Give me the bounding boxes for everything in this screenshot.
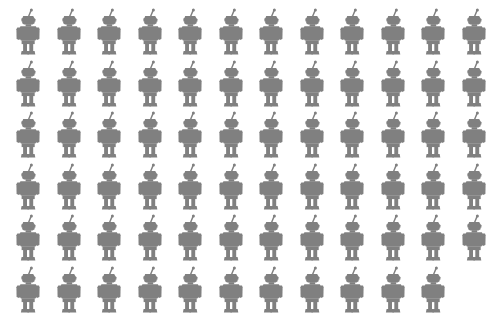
robot-icon <box>415 8 451 56</box>
robot-icon <box>10 60 46 108</box>
robot-icon <box>172 266 208 314</box>
robot-icon <box>213 60 249 108</box>
robot-icon <box>334 266 370 314</box>
robot-icon <box>10 111 46 159</box>
robot-icon <box>456 60 492 108</box>
robot-icon <box>91 8 127 56</box>
robot-icon <box>91 163 127 211</box>
robot-icon <box>415 111 451 159</box>
robot-icon <box>294 111 330 159</box>
robot-icon <box>91 111 127 159</box>
robot-icon <box>10 8 46 56</box>
robot-icon <box>456 214 492 262</box>
robot-icon <box>51 266 87 314</box>
robot-icon <box>10 266 46 314</box>
robot-icon <box>456 163 492 211</box>
robot-icon <box>10 214 46 262</box>
robot-icon <box>213 8 249 56</box>
robot-icon <box>334 163 370 211</box>
robot-icon <box>172 111 208 159</box>
robot-grid <box>0 0 495 332</box>
robot-icon <box>456 111 492 159</box>
robot-icon <box>294 266 330 314</box>
robot-icon <box>253 60 289 108</box>
robot-icon <box>375 214 411 262</box>
robot-icon <box>375 163 411 211</box>
robot-icon <box>213 214 249 262</box>
robot-icon <box>132 8 168 56</box>
robot-icon <box>132 266 168 314</box>
robot-icon <box>51 8 87 56</box>
robot-icon <box>213 163 249 211</box>
robot-icon <box>253 8 289 56</box>
robot-icon <box>375 60 411 108</box>
robot-icon <box>10 163 46 211</box>
robot-icon <box>172 214 208 262</box>
robot-icon <box>294 8 330 56</box>
robot-icon <box>51 111 87 159</box>
robot-icon <box>375 111 411 159</box>
robot-icon <box>213 111 249 159</box>
robot-icon <box>91 214 127 262</box>
robot-icon <box>91 60 127 108</box>
robot-icon <box>375 266 411 314</box>
robot-icon <box>415 266 451 314</box>
robot-icon <box>415 60 451 108</box>
robot-icon <box>334 8 370 56</box>
robot-icon <box>172 8 208 56</box>
robot-icon <box>334 111 370 159</box>
robot-icon <box>253 214 289 262</box>
robot-icon <box>51 163 87 211</box>
robot-icon <box>253 111 289 159</box>
robot-icon <box>415 163 451 211</box>
robot-icon <box>294 214 330 262</box>
robot-icon <box>294 60 330 108</box>
robot-icon <box>334 60 370 108</box>
robot-icon <box>132 214 168 262</box>
robot-icon <box>294 163 330 211</box>
robot-icon <box>132 163 168 211</box>
robot-icon <box>253 163 289 211</box>
robot-icon <box>51 60 87 108</box>
robot-icon <box>456 8 492 56</box>
pictogram-canvas <box>0 0 495 332</box>
robot-icon <box>375 8 411 56</box>
robot-icon <box>334 214 370 262</box>
robot-icon <box>172 163 208 211</box>
robot-icon <box>51 214 87 262</box>
robot-icon <box>253 266 289 314</box>
robot-icon <box>172 60 208 108</box>
robot-icon <box>132 111 168 159</box>
robot-icon <box>213 266 249 314</box>
robot-icon <box>91 266 127 314</box>
robot-icon <box>415 214 451 262</box>
robot-icon <box>132 60 168 108</box>
